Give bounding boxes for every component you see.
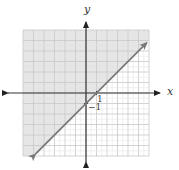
x-axis-label: x <box>167 85 173 98</box>
y-axis-label: y <box>84 3 90 16</box>
y-tick-minus-1: −1 <box>88 102 101 112</box>
inequality-graph <box>0 0 179 170</box>
